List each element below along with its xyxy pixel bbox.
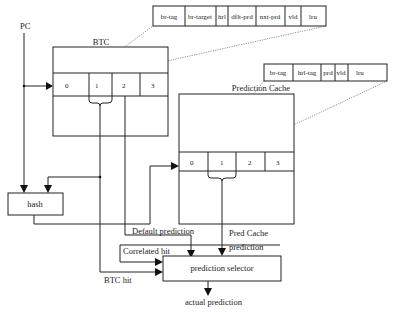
btc-entry-2: 2	[122, 82, 126, 90]
hash-label: hash	[27, 199, 43, 209]
btc-field-hrl: hrl	[218, 13, 226, 21]
prediction-cache-table: 0 1 2 3	[179, 94, 294, 224]
pc-field-hrl-tag: hrl-tag	[298, 69, 317, 77]
pc-field-vld: vld	[337, 69, 346, 77]
pc-entry-0: 0	[190, 159, 194, 167]
pc-field-lru: lru	[356, 69, 364, 77]
btc-field-dflt-prd: dflt-prd	[231, 13, 253, 21]
prediction-selector-label: prediction selector	[190, 263, 253, 273]
arrow-icon	[204, 288, 212, 296]
btc-field-vld: vld	[289, 13, 298, 21]
btc-entry-1: 1	[95, 82, 99, 90]
pc-entry-3: 3	[276, 159, 280, 167]
prediction-cache-title: Prediction Cache	[232, 83, 291, 93]
btc-entry-3: 3	[151, 82, 155, 90]
default-prediction-label: Default prediction	[132, 226, 195, 236]
btc-fields-row: br-tag br-target hrl dflt-prd nxt-prd vl…	[153, 6, 326, 26]
arrow-icon	[46, 82, 53, 90]
arrow-icon	[218, 248, 226, 256]
arrow-icon	[44, 185, 52, 193]
pc-label: PC	[20, 21, 31, 31]
correlated-hit-label: Correlated hit	[123, 246, 171, 256]
btc-box	[53, 47, 168, 136]
btc-prediction-diagram: br-tag br-target hrl dflt-prd nxt-prd vl…	[0, 0, 398, 312]
btc-field-br-target: br-target	[188, 13, 212, 21]
btc-entry-0: 0	[65, 82, 69, 90]
btc-table: 0 1 2 3	[53, 47, 168, 136]
btc-field-lru: lru	[309, 13, 317, 21]
arrow-icon	[155, 268, 163, 276]
arrow-icon	[20, 185, 28, 193]
pc-field-br-tag: br-tag	[270, 69, 287, 77]
arrow-icon	[155, 258, 163, 266]
pc-entry-2: 2	[248, 159, 252, 167]
pc-field-prd: prd	[323, 69, 333, 77]
prediction-cache-fields-row: br-tag hrl-tag prd vld lru	[264, 64, 387, 81]
btc-field-nxt-prd: nxt-prd	[260, 13, 281, 21]
arrow-icon	[171, 162, 179, 170]
btc-hit-label: BTC hit	[104, 275, 132, 285]
pred-cache-label-line1: Pred Cache	[229, 228, 268, 238]
pred-cache-label-line2: prediction	[229, 242, 264, 252]
pc-entry-1: 1	[220, 159, 224, 167]
btc-field-br-tag: br-tag	[161, 13, 178, 21]
actual-prediction-label: actual prediction	[185, 297, 243, 307]
btc-title: BTC	[93, 37, 110, 47]
